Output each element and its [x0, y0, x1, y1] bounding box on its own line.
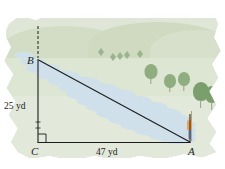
vertex-label-c: C [31, 146, 38, 157]
triangle-overlay [0, 0, 225, 169]
hypotenuse-ba-line [39, 60, 191, 142]
measure-label-vertical: 25 yd [4, 102, 25, 112]
measure-label-horizontal: 47 yd [96, 148, 117, 158]
vertex-label-b: B [27, 55, 34, 66]
right-angle-marker [38, 134, 46, 143]
vertex-label-a: A [188, 146, 195, 157]
figure-canvas: B C A 25 yd 47 yd [0, 0, 225, 169]
